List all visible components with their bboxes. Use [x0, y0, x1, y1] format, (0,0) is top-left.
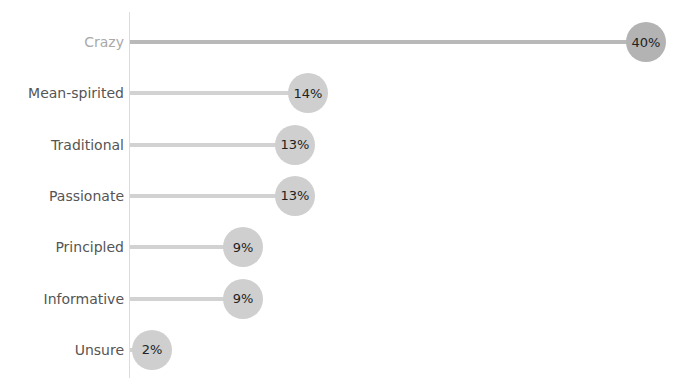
category-label: Informative	[44, 289, 125, 309]
category-label: Crazy	[84, 32, 124, 52]
category-label: Traditional	[51, 135, 124, 155]
value-label: 40%	[632, 35, 661, 50]
category-label: Passionate	[49, 186, 124, 206]
lollipop-dot: 2%	[132, 330, 172, 370]
category-label: Unsure	[75, 340, 124, 360]
value-label: 2%	[142, 342, 163, 357]
lollipop-dot: 9%	[223, 279, 263, 319]
value-label: 13%	[281, 137, 310, 152]
lollipop-stem	[130, 40, 646, 44]
lollipop-stem	[130, 194, 295, 198]
lollipop-dot: 14%	[288, 73, 328, 113]
value-label: 14%	[294, 86, 323, 101]
value-label: 9%	[233, 240, 254, 255]
lollipop-dot: 40%	[626, 22, 666, 62]
value-label: 9%	[233, 291, 254, 306]
lollipop-stem	[130, 143, 295, 147]
category-label: Principled	[55, 237, 124, 257]
category-label: Mean-spirited	[28, 83, 124, 103]
value-label: 13%	[281, 188, 310, 203]
lollipop-dot: 13%	[275, 176, 315, 216]
lollipop-stem	[130, 91, 308, 95]
lollipop-dot: 9%	[223, 227, 263, 267]
lollipop-dot: 13%	[275, 125, 315, 165]
